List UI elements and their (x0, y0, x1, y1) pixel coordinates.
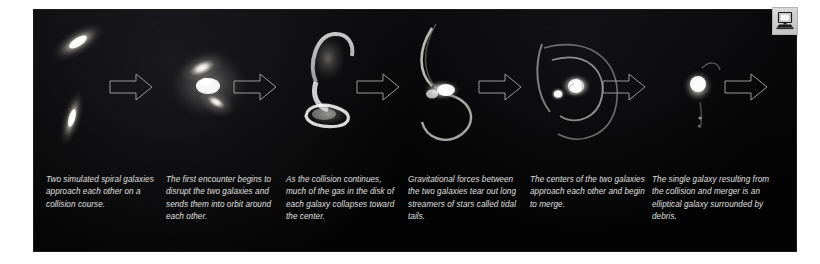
sequence-arrow-icon (356, 72, 400, 102)
stage-caption-4: Gravitational forces between the two gal… (408, 174, 526, 223)
sequence-arrow-icon (724, 72, 768, 102)
stage-caption-3: As the collision continues, much of the … (286, 174, 404, 223)
stage-caption-2: The first encounter begins to disrupt th… (166, 174, 284, 223)
galaxy-collision-figure: Two simulated spiral galaxies approach e… (0, 0, 820, 264)
computer-monitor-icon (776, 11, 794, 31)
sequence-arrow-icon (478, 72, 522, 102)
caption-row: Two simulated spiral galaxies approach e… (34, 174, 796, 246)
stage-caption-6: The single galaxy resulting from the col… (652, 174, 770, 223)
stage-caption-5: The centers of the two galaxies approach… (530, 174, 648, 211)
computer-button[interactable] (772, 7, 798, 35)
sky-panel: Two simulated spiral galaxies approach e… (34, 10, 796, 251)
sequence-arrow-icon (233, 72, 277, 102)
stage-caption-1: Two simulated spiral galaxies approach e… (46, 174, 164, 211)
sequence-arrow-icon (602, 72, 646, 102)
sequence-arrow-icon (109, 72, 153, 102)
sequence-strip (34, 10, 796, 162)
